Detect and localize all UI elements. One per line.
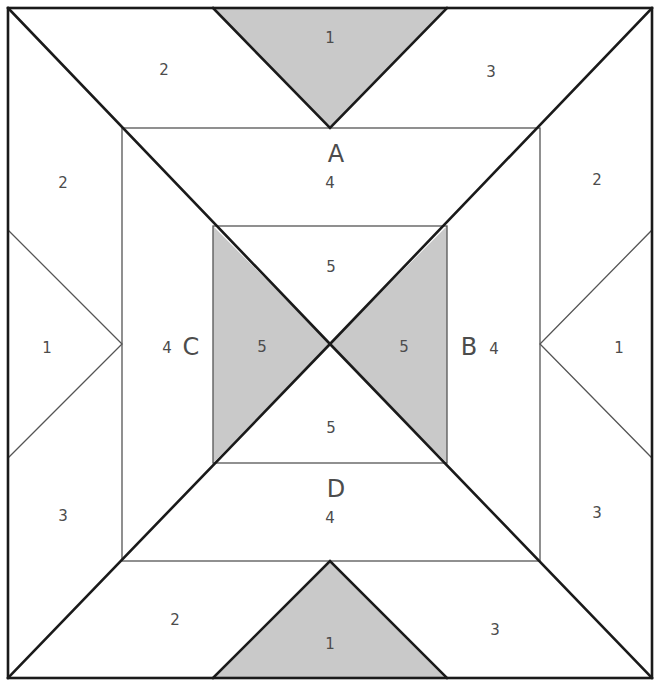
region-label-lower-right-band: 3 [592,504,602,522]
region-label-ring-left-quad: 4 [162,339,172,357]
corner-label-B: B [461,333,477,361]
region-label-right-white-triangle: 1 [614,339,624,357]
corner-label-D: D [327,475,345,503]
region-label-ring-top-quad: 4 [325,174,335,192]
region-label-inner-right-triangle: 5 [399,338,409,356]
corner-label-C: C [183,333,200,361]
region-label-bottom-right-trapezoid: 3 [490,621,500,639]
region-label-upper-right-band: 2 [592,171,602,189]
region-label-inner-top-triangle: 5 [326,258,336,276]
region-label-top-shaded-triangle: 1 [325,29,335,47]
diagram-root: 1 2 3 2 2 1 1 4 4 4 4 5 5 5 5 3 3 2 3 1 … [0,0,661,686]
region-label-lower-left-band: 3 [58,507,68,525]
region-label-bottom-shaded-triangle: 1 [325,635,335,653]
region-label-inner-left-triangle: 5 [257,338,267,356]
region-label-top-right-trapezoid: 3 [486,63,496,81]
region-label-ring-bottom-quad: 4 [325,509,335,527]
region-label-ring-right-quad: 4 [489,340,499,358]
corner-label-A: A [328,140,345,168]
region-label-top-left-trapezoid: 2 [159,61,169,79]
region-label-upper-left-band: 2 [58,174,68,192]
region-label-inner-bottom-triangle: 5 [326,419,336,437]
region-label-bottom-left-trapezoid: 2 [170,611,180,629]
geometric-diagram: 1 2 3 2 2 1 1 4 4 4 4 5 5 5 5 3 3 2 3 1 … [0,0,661,686]
region-label-left-white-triangle: 1 [42,339,52,357]
